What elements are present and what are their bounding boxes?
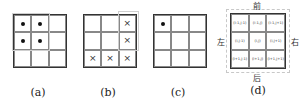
direction-bottom-label: 后 [253, 72, 261, 83]
grid-cell [84, 15, 101, 32]
grid-cell [49, 15, 66, 32]
grid-cell [154, 15, 171, 32]
panel-b: ××××× (b) [70, 0, 146, 106]
direction-left-label: 左 [217, 36, 225, 47]
caption-d: (d) [217, 84, 299, 97]
panel-c: (c) [140, 0, 216, 106]
dot-icon [21, 39, 25, 43]
grid-cell: × [84, 50, 101, 67]
grid-cell [31, 50, 48, 67]
cell-coordinate-label: (i+1,j-1) [232, 57, 247, 61]
cell-coordinate-label: (i-1,j) [253, 21, 263, 25]
grid-cell [101, 32, 118, 49]
neighborhood-cell: (i-1,j) [249, 14, 267, 32]
neighborhood-cell: (i+1,j) [249, 50, 267, 68]
grid-cell [189, 50, 206, 67]
caption-c: (c) [140, 86, 216, 99]
grid-c [153, 14, 207, 68]
cell-coordinate-label: (i+1,j) [252, 57, 263, 61]
neighborhood-cell: (i-1,j+1) [266, 14, 285, 32]
grid-cell: × [119, 15, 136, 32]
grid-cell [14, 50, 31, 67]
direction-right-label: 右 [291, 36, 299, 47]
grid-b: ××××× [83, 14, 137, 68]
dot-icon [161, 22, 165, 26]
grid-cell [84, 32, 101, 49]
grid-a [13, 14, 67, 68]
neighborhood-cell: (i,j) [249, 32, 267, 50]
cell-coordinate-label: (i-1,j+1) [268, 21, 283, 25]
neighborhood-cell: (i-1,j-1) [231, 14, 249, 32]
cross-icon: × [106, 54, 114, 63]
cell-coordinate-label: (i,j+1) [270, 39, 281, 43]
cell-coordinate-label: (i,j-1) [235, 39, 245, 43]
grid-cell [101, 15, 118, 32]
cross-icon: × [124, 19, 132, 28]
grid-d: (i-1,j-1)(i-1,j)(i-1,j+1)(i,j-1)(i,j)(i,… [230, 13, 286, 69]
panel-a: (a) [0, 0, 76, 106]
grid-cell: × [101, 50, 118, 67]
direction-top-label: 前 [253, 0, 261, 11]
cell-coordinate-label: (i+1,j+1) [267, 57, 284, 61]
grid-cell [154, 50, 171, 67]
grid-cell: × [119, 50, 136, 67]
grid-cell [171, 32, 188, 49]
caption-a: (a) [0, 86, 76, 99]
grid-cell [49, 50, 66, 67]
grid-cell [49, 32, 66, 49]
cell-coordinate-label: (i,j) [255, 39, 261, 43]
dot-icon [21, 22, 25, 26]
grid-cell [14, 32, 31, 49]
neighborhood-cell: (i,j-1) [231, 32, 249, 50]
caption-b: (b) [70, 86, 146, 99]
neighborhood-cell: (i+1,j-1) [231, 50, 249, 68]
grid-cell [31, 15, 48, 32]
grid-cell [154, 32, 171, 49]
grid-cell [189, 32, 206, 49]
grid-cell [31, 32, 48, 49]
cell-coordinate-label: (i-1,j-1) [233, 21, 246, 25]
cross-icon: × [124, 36, 132, 45]
panel-d: (i-1,j-1)(i-1,j)(i-1,j+1)(i,j-1)(i,j)(i,… [217, 0, 307, 106]
neighborhood-cell: (i,j+1) [266, 32, 285, 50]
grid-cell [189, 15, 206, 32]
cross-icon: × [89, 54, 97, 63]
dot-icon [38, 22, 42, 26]
grid-cell [14, 15, 31, 32]
cross-icon: × [124, 54, 132, 63]
grid-cell: × [119, 32, 136, 49]
dot-icon [38, 39, 42, 43]
neighborhood-cell: (i+1,j+1) [266, 50, 285, 68]
grid-cell [171, 50, 188, 67]
grid-cell [171, 15, 188, 32]
